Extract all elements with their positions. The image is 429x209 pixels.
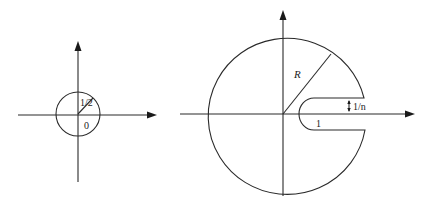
left-y-axis-arrow-icon: [75, 41, 82, 51]
slit-width-arrow-down-icon: [347, 108, 350, 112]
big-radius-label: R: [293, 68, 301, 80]
left-x-axis-arrow-icon: [147, 112, 157, 119]
keyhole-contour: [208, 38, 365, 194]
figure: 1/2 0 R 1/n 1: [0, 0, 429, 209]
slit-width-label: 1/n: [353, 101, 366, 112]
origin-label: 0: [84, 120, 89, 131]
slit-start-label: 1: [316, 118, 321, 129]
right-y-axis-arrow-icon: [280, 10, 287, 20]
right-x-axis-arrow-icon: [405, 111, 415, 118]
right-panel: R 1/n 1: [180, 10, 415, 196]
slit-width-text: 1/n: [353, 101, 366, 112]
left-panel: 1/2 0: [18, 41, 157, 182]
big-radius-line: [283, 54, 331, 114]
small-radius-label: 1/2: [80, 97, 93, 108]
slit-width-arrow-up-icon: [347, 100, 350, 104]
